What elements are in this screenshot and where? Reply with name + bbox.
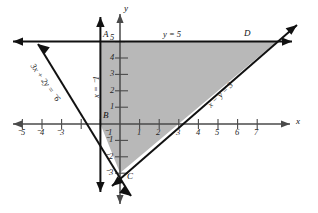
y-tick-5: 5 [110,33,114,42]
vertex-label-B: B [103,111,109,120]
equation-label-y-equals-5: y = 5 [163,30,181,39]
x-tick-6: 6 [235,128,239,137]
vertex-label-D: D [244,29,251,38]
y-tick-3: 3 [110,69,114,78]
x-tick-negative-5: ⁻5 [17,128,25,137]
graph-canvas [0,0,318,213]
x-tick-4: 4 [196,128,200,137]
x-tick-1: 1 [137,128,141,137]
x-tick-3: 3 [176,128,180,137]
x-tick-5: 5 [215,128,219,137]
y-tick-negative-1: ⁻1 [105,135,113,144]
coordinate-plane-figure: y x A B C D y = 5 x = ⁻1 3x + 2y = ⁻6 x … [0,0,318,213]
x-tick-7: 7 [254,128,258,137]
y-tick-negative-3: ⁻3 [105,168,113,177]
y-tick-negative-2: ⁻2 [105,152,113,161]
x-tick-negative-4: ⁻4 [36,128,44,137]
y-tick-2: 2 [110,86,114,95]
y-tick-4: 4 [110,53,114,62]
y-tick-1: 1 [110,102,114,111]
equation-label-x-equals-negative-1: x = ⁻1 [92,76,101,98]
x-tick-negative-3: ⁻3 [56,128,64,137]
vertex-label-A: A [103,30,109,39]
x-tick-2: 2 [156,128,160,137]
x-axis-label: x [296,117,300,126]
y-axis-label: y [124,4,128,13]
vertex-label-C: C [127,172,133,181]
